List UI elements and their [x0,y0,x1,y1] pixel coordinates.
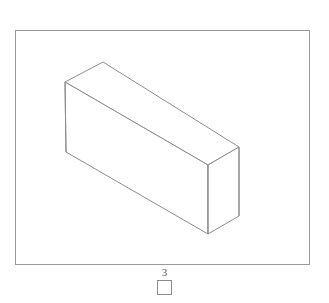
color-swatch[interactable] [157,280,172,295]
legend: 3 [0,266,329,299]
legend-number-label: 3 [0,266,329,278]
figure-canvas: 3 [0,0,329,303]
diagram-svg [0,0,329,303]
